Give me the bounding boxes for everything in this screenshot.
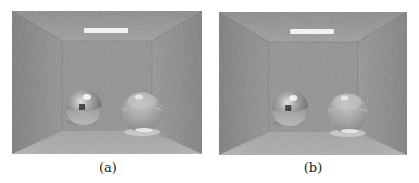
rendered-scene-image — [12, 11, 202, 154]
rendered-scene-image — [219, 12, 407, 155]
figure-panel-a — [12, 11, 202, 154]
caption-b: (b) — [283, 160, 343, 175]
figure-panel-b — [219, 12, 407, 155]
caption-a: (a) — [78, 160, 138, 175]
